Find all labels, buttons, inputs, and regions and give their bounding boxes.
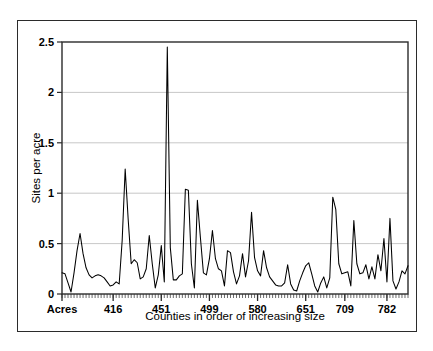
x-tick-label: Acres [47, 303, 78, 315]
y-tick-group [57, 42, 62, 294]
line-chart: 00.511.522.5 Acres416451499580651709782 … [0, 0, 433, 351]
y-tick-label: 0 [48, 288, 54, 300]
data-series-line [62, 47, 408, 292]
gridlines-group [62, 92, 408, 243]
y-tick-label: 2.5 [39, 36, 54, 48]
y-tick-label: 2 [48, 86, 54, 98]
x-axis-title: Counties in order of increasing size [145, 310, 325, 322]
y-axis-title: Sites per acre [30, 133, 42, 204]
y-tick-label: 1 [48, 187, 54, 199]
figure-container: 00.511.522.5 Acres416451499580651709782 … [0, 0, 433, 351]
x-tick-label: 782 [378, 303, 396, 315]
y-tick-label: 0.5 [39, 238, 54, 250]
x-tick-label: 709 [336, 303, 354, 315]
x-tick-label: 416 [104, 303, 122, 315]
